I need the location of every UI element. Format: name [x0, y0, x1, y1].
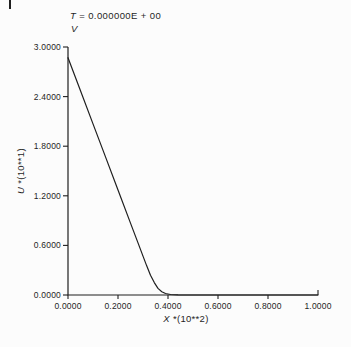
- axis-spine: [68, 47, 318, 295]
- x-tick-label: 0.8000: [254, 301, 281, 311]
- figure-page: T= 0.000000E + 00 V U*(10**1) X*(10**2) …: [0, 0, 351, 347]
- y-tick-label: 1.2000: [34, 191, 61, 201]
- x-tick-label: 0.0000: [54, 301, 81, 311]
- data-curve-V: [68, 58, 318, 295]
- y-tick-label: 1.8000: [34, 141, 61, 151]
- x-tick-label: 1.0000: [304, 301, 331, 311]
- x-tick-label: 0.4000: [154, 301, 181, 311]
- x-tick-label: 0.2000: [104, 301, 131, 311]
- y-tick-label: 3.0000: [34, 42, 61, 52]
- y-tick-label: 0.0000: [34, 290, 61, 300]
- x-tick-label: 0.6000: [204, 301, 231, 311]
- y-tick-label: 0.6000: [34, 240, 61, 250]
- y-tick-label: 2.4000: [34, 92, 61, 102]
- plot-canvas: 0.00000.60001.20001.80002.40003.00000.00…: [0, 0, 351, 347]
